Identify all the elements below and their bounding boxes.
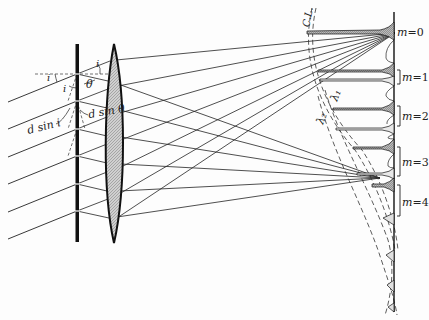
order-value: =3	[412, 156, 428, 169]
diffraction-grating-diagram: i i i θ d sin i d sin θ C.L. λ₁ λ₂ m=0 m…	[0, 0, 429, 320]
order-m-symbol: m	[397, 26, 407, 39]
order-label-m1: m=1	[402, 72, 429, 83]
peak-m8	[388, 303, 394, 312]
order-label-m2: m=2	[402, 111, 429, 122]
order-value: =2	[412, 110, 428, 123]
peak-m2-l1	[333, 101, 394, 115]
lens	[106, 44, 123, 243]
order-label-m0: m=0	[397, 27, 424, 38]
peak-m3-l1	[353, 139, 394, 154]
peak-m7	[387, 280, 394, 292]
order-brackets	[397, 70, 400, 216]
label-incidence-angle-left: i	[47, 73, 50, 83]
order-label-m3: m=3	[402, 157, 429, 168]
order-value: =0	[407, 26, 423, 39]
order-m-symbol: m	[402, 196, 412, 209]
order-value: =4	[412, 196, 428, 209]
grating	[75, 44, 80, 242]
order-label-m4: m=4	[402, 197, 429, 208]
diagram-canvas	[0, 0, 429, 320]
order-value: =1	[412, 71, 428, 84]
peak-m2-l2	[336, 123, 394, 134]
label-incidence-angle-top: i	[96, 59, 99, 69]
order-m-symbol: m	[402, 71, 412, 84]
order-m-symbol: m	[402, 156, 412, 169]
incident-rays	[8, 74, 77, 239]
label-diffraction-angle: θ	[86, 79, 93, 90]
peak-m1-l2	[320, 76, 394, 86]
label-incidence-angle-inner: i	[63, 84, 66, 94]
peak-m6	[386, 250, 394, 262]
order-m-symbol: m	[402, 110, 412, 123]
